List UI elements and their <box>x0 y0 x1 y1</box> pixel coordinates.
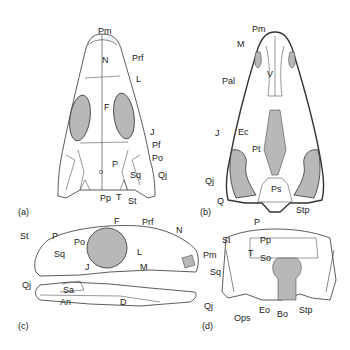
label-c-frontal: F <box>114 217 120 226</box>
label-c-dentary: D <box>120 298 127 307</box>
label-d-exoccipital: Eo <box>259 306 270 315</box>
label-a-lacrimal: L <box>136 75 141 84</box>
label-a-tabular: T <box>116 193 122 202</box>
label-a-postparietal: Pp <box>100 194 111 203</box>
label-c-lacrimal: L <box>137 248 142 257</box>
label-c-maxilla: M <box>140 263 148 272</box>
label-b-quadratojugal: Qj <box>205 177 214 186</box>
label-c-nasal: N <box>176 226 183 235</box>
label-b-palatine: Pal <box>222 77 235 86</box>
label-d-supraoccipital: So <box>260 254 271 263</box>
label-a-premaxilla: Pm <box>98 27 112 36</box>
skull-diagram: Pm N Prf L F J Pf Po P Sq Qj Pp T St (a)… <box>0 0 350 350</box>
label-c-surangular: Sa <box>63 286 74 295</box>
panel-label-d: (d) <box>202 322 213 331</box>
lateral-skull-c <box>35 226 199 306</box>
label-a-parietal: P <box>112 160 118 169</box>
label-d-squamosal: Sq <box>210 268 221 277</box>
label-b-quadrate: Q <box>217 197 224 206</box>
label-b-premaxilla: Pm <box>252 25 266 34</box>
label-a-postorbital: Po <box>152 154 163 163</box>
label-d-tabular: T <box>248 249 254 258</box>
label-a-postfrontal: Pf <box>152 141 161 150</box>
label-b-maxilla: M <box>237 40 245 49</box>
label-d-parietal: P <box>254 218 260 227</box>
label-b-parasphenoid: Ps <box>271 185 282 194</box>
label-c-supratemporal: St <box>20 232 29 241</box>
label-d-postparietal: Pp <box>260 236 271 245</box>
label-a-jugal: J <box>150 128 155 137</box>
panel-label-a: (a) <box>18 208 29 217</box>
label-a-supratemporal: St <box>128 197 137 206</box>
label-c-premaxilla: Pm <box>203 251 217 260</box>
label-d-opisthotic: Ops <box>234 314 251 323</box>
label-d-quadratojugal: Qj <box>204 302 213 311</box>
label-c-jugal: J <box>85 263 90 272</box>
label-a-frontal: F <box>104 103 110 112</box>
label-c-quadratojugal: Qj <box>22 281 31 290</box>
label-a-prefrontal: Prf <box>132 54 144 63</box>
label-c-postorbital: Po <box>74 238 85 247</box>
label-b-ectopterygoid: Ec <box>238 128 249 137</box>
label-b-jugal: J <box>215 129 220 138</box>
label-b-stapes: Stp <box>296 206 310 215</box>
label-c-prefrontal: Prf <box>142 218 154 227</box>
occipital-skull-d <box>222 229 336 300</box>
label-a-squamosal: Sq <box>130 171 141 180</box>
label-b-vomer: V <box>267 70 273 79</box>
label-d-stapes: Stp <box>299 306 313 315</box>
panel-label-c: (c) <box>18 322 29 331</box>
label-c-angular: An <box>60 298 71 307</box>
label-c-squamosal: Sq <box>54 250 65 259</box>
label-d-basioccipital: Bo <box>277 310 288 319</box>
label-a-quadratojugal: Qj <box>158 171 167 180</box>
panel-label-b: (b) <box>200 208 211 217</box>
label-c-parietal: P <box>52 232 58 241</box>
label-a-nasal: N <box>102 56 109 65</box>
label-d-supratemporal: St <box>222 236 231 245</box>
skull-drawings <box>0 0 350 350</box>
label-b-pterygoid: Pt <box>252 145 261 154</box>
